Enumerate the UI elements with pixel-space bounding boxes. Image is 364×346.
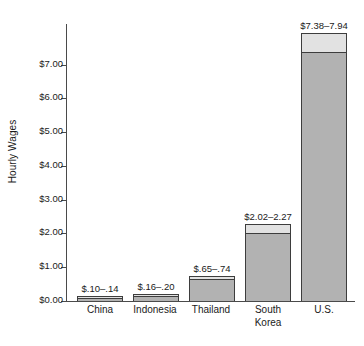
x-label-us: U.S. (301, 304, 347, 317)
bar-south-korea-range-cap (245, 224, 291, 232)
bar-indonesia-label: $.16–.20 (138, 281, 175, 292)
y-tick-label-7: $7.00 (39, 58, 63, 69)
bar-indonesia[interactable]: $.16–.20 (133, 294, 179, 301)
plot-area: $0.00 $1.00 $2.00 $3.00 $4.00 $5.00 $6.0… (66, 24, 355, 302)
y-axis-title-text: Hourly Wages (8, 119, 19, 183)
y-tick-label-5: $5.00 (39, 125, 63, 136)
x-label-south-korea: South Korea (245, 304, 291, 329)
bar-south-korea-label: $2.02–2.27 (244, 211, 292, 222)
y-tick-label-2: $2.00 (39, 226, 63, 237)
x-label-south-korea-line2: Korea (245, 317, 291, 330)
x-label-indonesia: Indonesia (125, 304, 185, 317)
bars-container: $.10–.14 $.16–.20 $.65–.74 $2.02–2.27 (67, 24, 355, 301)
bar-china-body (77, 298, 123, 301)
x-label-china-line1: China (77, 304, 123, 317)
hourly-wages-bar-chart: Hourly Wages $0.00 $1.00 $2.00 $3.00 $4.… (0, 0, 364, 346)
y-tick-label-3: $3.00 (39, 193, 63, 204)
x-axis-category-labels: China Indonesia Thailand South Korea U.S… (66, 304, 355, 344)
x-label-thailand: Thailand (185, 304, 237, 317)
bar-china[interactable]: $.10–.14 (77, 296, 123, 301)
bar-thailand-body (189, 279, 235, 301)
bar-us[interactable]: $7.38–7.94 (301, 33, 347, 301)
x-label-china: China (77, 304, 123, 317)
x-axis-line (66, 301, 355, 302)
x-label-thailand-line1: Thailand (185, 304, 237, 317)
bar-china-label: $.10–.14 (82, 283, 119, 294)
bar-us-label: $7.38–7.94 (300, 20, 348, 31)
y-tick-label-1: $1.00 (39, 260, 63, 271)
bar-thailand[interactable]: $.65–.74 (189, 276, 235, 301)
x-label-indonesia-line1: Indonesia (125, 304, 185, 317)
bar-us-body (301, 52, 347, 301)
bar-thailand-label: $.65–.74 (194, 263, 231, 274)
y-axis-title: Hourly Wages (2, 0, 24, 302)
y-tick-label-4: $4.00 (39, 159, 63, 170)
x-label-us-line1: U.S. (301, 304, 347, 317)
bar-us-range-cap (301, 33, 347, 52)
y-tick-label-0: $0.00 (39, 294, 63, 305)
x-label-south-korea-line1: South (245, 304, 291, 317)
bar-south-korea[interactable]: $2.02–2.27 (245, 224, 291, 301)
bar-south-korea-body (245, 233, 291, 301)
bar-indonesia-body (133, 296, 179, 301)
y-tick-label-6: $6.00 (39, 91, 63, 102)
